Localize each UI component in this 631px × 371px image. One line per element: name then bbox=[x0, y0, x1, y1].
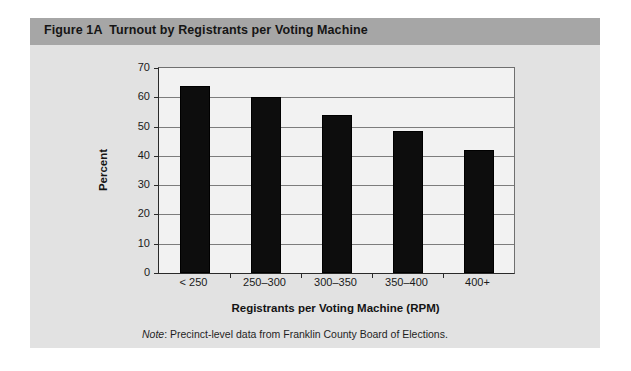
figure-note: Note: Precinct-level data from Franklin … bbox=[142, 328, 448, 340]
figure-panel: Figure 1A Turnout by Registrants per Vot… bbox=[30, 18, 600, 348]
y-axis-tick bbox=[154, 97, 159, 98]
y-axis-tick-label: 10 bbox=[124, 237, 150, 249]
bar bbox=[464, 150, 494, 273]
y-axis-tick bbox=[154, 127, 159, 128]
x-axis-tick-labels: < 250250–300300–350350–400400+ bbox=[158, 276, 513, 292]
y-axis-title-label: Percent bbox=[97, 148, 109, 190]
y-axis-tick-label: 50 bbox=[124, 120, 150, 132]
y-axis-tick-label: 70 bbox=[124, 61, 150, 73]
y-axis-tick bbox=[154, 273, 159, 274]
figure-title-band: Figure 1A Turnout by Registrants per Vot… bbox=[30, 18, 600, 45]
plot-area bbox=[158, 67, 515, 274]
y-axis-tick-label: 20 bbox=[124, 207, 150, 219]
bar bbox=[180, 86, 210, 273]
y-axis-title: Percent bbox=[94, 67, 112, 272]
figure-note-label: Note bbox=[142, 328, 164, 340]
figure-title: Figure 1A Turnout by Registrants per Vot… bbox=[44, 23, 368, 37]
x-axis-tick-label: < 250 bbox=[180, 276, 208, 288]
bar bbox=[393, 131, 423, 273]
bar bbox=[251, 97, 281, 273]
figure-note-text: : Precinct-level data from Franklin Coun… bbox=[164, 328, 448, 340]
y-axis-tick bbox=[154, 244, 159, 245]
x-axis-tick-label: 400+ bbox=[465, 276, 490, 288]
y-axis-tick-label: 40 bbox=[124, 149, 150, 161]
y-axis-tick bbox=[154, 214, 159, 215]
y-axis-tick-label: 60 bbox=[124, 90, 150, 102]
x-axis-tick-label: 300–350 bbox=[314, 276, 357, 288]
x-axis-tick-label: 350–400 bbox=[385, 276, 428, 288]
y-axis-tick-label: 0 bbox=[124, 266, 150, 278]
gridline bbox=[159, 97, 514, 98]
x-axis-title: Registrants per Voting Machine (RPM) bbox=[158, 302, 513, 314]
y-axis-tick-labels: 010203040506070 bbox=[124, 67, 152, 272]
bar bbox=[322, 115, 352, 273]
x-axis-tick-label: 250–300 bbox=[243, 276, 286, 288]
y-axis-tick bbox=[154, 185, 159, 186]
y-axis-tick bbox=[154, 68, 159, 69]
y-axis-tick bbox=[154, 156, 159, 157]
y-axis-tick-label: 30 bbox=[124, 178, 150, 190]
